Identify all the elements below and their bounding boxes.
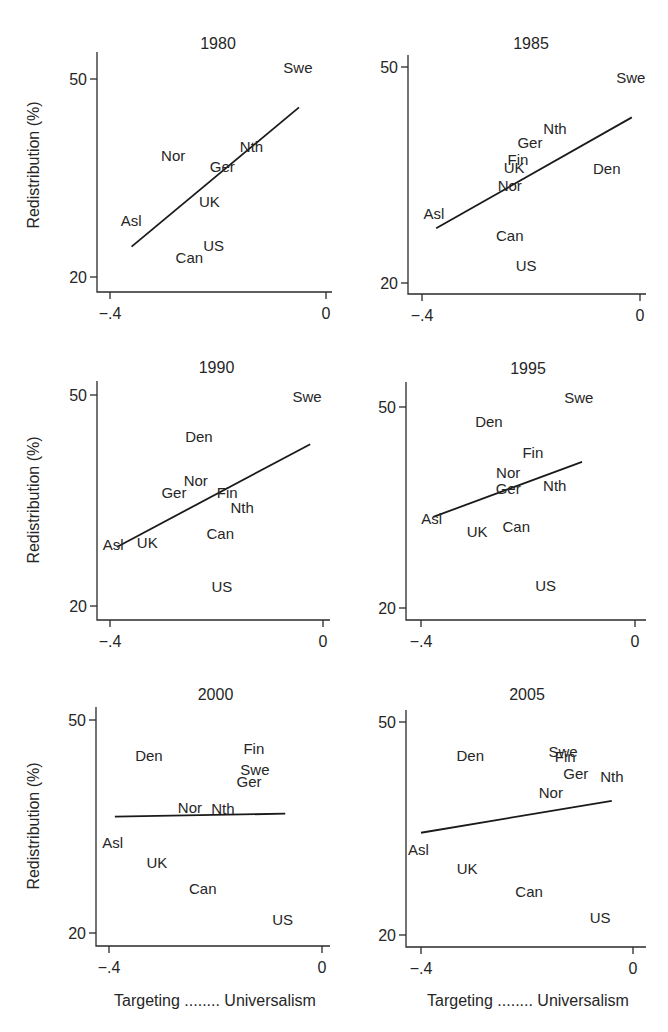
y-axis-title-row1: Redistribution (%): [25, 101, 42, 228]
country-label-fin: Fin: [522, 444, 543, 461]
country-label-nor: Nor: [498, 177, 522, 194]
regression-line: [421, 801, 612, 833]
panel-1995: 19955020−.40SweDenFinNorNthGerAslCanUKUS: [378, 360, 646, 650]
country-label-ger: Ger: [161, 484, 186, 501]
panel-title: 1980: [200, 35, 236, 52]
country-label-nth: Nth: [230, 499, 253, 516]
x-tick-label: −.4: [411, 307, 434, 324]
country-label-nth: Nth: [211, 800, 234, 817]
country-label-uk: UK: [137, 534, 158, 551]
x-axis-title-left: Targeting ........ Universalism: [114, 992, 316, 1009]
country-label-swe: Swe: [292, 388, 321, 405]
country-label-uk: UK: [457, 860, 478, 877]
country-label-ger: Ger: [210, 158, 235, 175]
panel-title: 1990: [199, 359, 235, 376]
country-label-uk: UK: [504, 159, 525, 176]
country-label-us: US: [272, 911, 293, 928]
regression-line: [132, 107, 299, 246]
panel-title: 2005: [509, 686, 545, 703]
country-label-den: Den: [475, 413, 503, 430]
country-label-asl: Asl: [103, 536, 124, 553]
country-label-asl: Asl: [421, 510, 442, 527]
country-label-us: US: [590, 909, 611, 926]
x-tick-label: 0: [322, 305, 331, 322]
x-tick-label: 0: [319, 633, 328, 650]
country-label-uk: UK: [467, 523, 488, 540]
country-label-nor: Nor: [496, 464, 520, 481]
panel-title: 1995: [510, 360, 546, 377]
country-label-den: Den: [457, 747, 485, 764]
country-label-fin: Fin: [217, 484, 238, 501]
country-label-asl: Asl: [102, 834, 123, 851]
chart-canvas: 19805020−.40SweNthNorGerUKAslUSCan 19855…: [0, 0, 668, 1032]
country-label-us: US: [203, 237, 224, 254]
x-tick-label: −.4: [410, 960, 433, 977]
country-label-swe: Swe: [564, 389, 593, 406]
country-label-nor: Nor: [539, 784, 563, 801]
x-axis-title-right: Targeting ........ Universalism: [427, 992, 629, 1009]
country-label-uk: UK: [199, 193, 220, 210]
country-label-ger: Ger: [517, 134, 542, 151]
panel-1985: 19855020−.40SweNthGerFinUKDenNorAslCanUS: [380, 35, 646, 324]
axis-frame: [406, 382, 646, 620]
panel-2005: 20055020−.40SweFinDenGerNthNorAslUKCanUS: [378, 686, 646, 977]
x-tick-label: −.4: [99, 633, 122, 650]
country-label-us: US: [535, 577, 556, 594]
y-tick-label: 20: [378, 600, 396, 617]
country-label-nth: Nth: [240, 138, 263, 155]
country-label-asl: Asl: [424, 205, 445, 222]
small-multiples-figure: 19805020−.40SweNthNorGerUKAslUSCan 19855…: [0, 0, 668, 1032]
country-label-us: US: [211, 578, 232, 595]
country-label-den: Den: [593, 160, 621, 177]
country-label-can: Can: [206, 525, 234, 542]
y-tick-label: 20: [68, 925, 86, 942]
country-label-den: Den: [135, 747, 163, 764]
country-label-nor: Nor: [178, 799, 202, 816]
axis-frame: [96, 707, 330, 946]
x-tick-label: 0: [318, 959, 327, 976]
x-tick-label: 0: [636, 307, 645, 324]
y-tick-label: 20: [380, 275, 398, 292]
y-tick-label: 20: [69, 598, 87, 615]
country-label-ger: Ger: [563, 765, 588, 782]
country-label-swe: Swe: [283, 59, 312, 76]
y-axis-title-row2: Redistribution (%): [25, 436, 42, 563]
country-label-can: Can: [515, 883, 543, 900]
country-label-den: Den: [185, 428, 213, 445]
country-label-nth: Nth: [600, 768, 623, 785]
x-tick-label: 0: [631, 633, 640, 650]
x-tick-label: −.4: [99, 305, 122, 322]
country-label-asl: Asl: [121, 212, 142, 229]
country-label-uk: UK: [147, 854, 168, 871]
panel-1980: 19805020−.40SweNthNorGerUKAslUSCan: [69, 35, 332, 322]
y-tick-label: 50: [380, 59, 398, 76]
y-tick-label: 20: [69, 269, 87, 286]
x-tick-label: −.4: [410, 633, 433, 650]
country-label-swe: Swe: [616, 69, 645, 86]
panel-title: 1985: [513, 35, 549, 52]
y-tick-label: 50: [378, 399, 396, 416]
country-label-can: Can: [502, 518, 530, 535]
y-tick-label: 50: [68, 712, 86, 729]
y-tick-label: 20: [378, 927, 396, 944]
country-label-can: Can: [189, 880, 217, 897]
country-label-fin: Fin: [243, 740, 264, 757]
country-label-fin: Fin: [555, 748, 576, 765]
y-tick-label: 50: [69, 387, 87, 404]
y-tick-label: 50: [69, 71, 87, 88]
panel-title: 2000: [198, 686, 234, 703]
country-label-can: Can: [496, 227, 524, 244]
country-label-nth: Nth: [543, 120, 566, 137]
country-label-ger: Ger: [496, 480, 521, 497]
panel-2000: 20005020−.40FinDenSweGerNorNthAslUKCanUS: [68, 686, 330, 976]
country-label-nor: Nor: [161, 147, 185, 164]
panel-1990: 19905020−.40SweDenNorGerFinNthCanUKAslUS: [69, 359, 330, 650]
country-label-can: Can: [176, 249, 204, 266]
country-label-nor: Nor: [184, 472, 208, 489]
country-label-nth: Nth: [543, 477, 566, 494]
y-axis-title-row3: Redistribution (%): [25, 762, 42, 889]
y-tick-label: 50: [378, 714, 396, 731]
x-tick-label: −.4: [98, 959, 121, 976]
country-label-ger: Ger: [237, 773, 262, 790]
x-tick-label: 0: [629, 960, 638, 977]
